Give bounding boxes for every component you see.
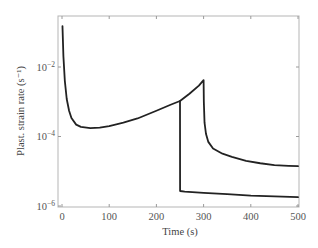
- x-tick-label: 200: [149, 211, 165, 222]
- strain-rate-chart: 0100200300400500 10−210−410−6 Time (s) P…: [0, 0, 318, 248]
- x-tick-label: 0: [59, 211, 64, 222]
- x-tick-label: 100: [101, 211, 117, 222]
- y-axis-title: Plast. strain rate (s⁻¹): [15, 66, 27, 156]
- y-tick-label: 10−4: [37, 129, 56, 142]
- y-tick-label: 10−6: [37, 199, 56, 212]
- x-tick-label: 400: [243, 211, 259, 222]
- data-series: [62, 26, 298, 197]
- y-tick-label: 10−2: [37, 60, 56, 73]
- x-tick-label: 500: [290, 211, 306, 222]
- plot-area-border: [58, 16, 299, 207]
- x-axis-title: Time (s): [162, 226, 198, 238]
- y-axis-ticks: 10−210−410−6: [37, 60, 299, 212]
- x-tick-label: 300: [196, 211, 212, 222]
- plot-frame: [58, 16, 299, 207]
- series-line-2: [180, 101, 298, 197]
